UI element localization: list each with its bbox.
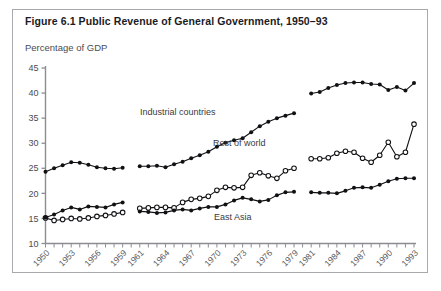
data-point — [103, 213, 108, 218]
data-point — [360, 156, 365, 161]
data-point — [275, 116, 279, 120]
data-point — [292, 111, 296, 115]
data-point — [335, 151, 340, 156]
data-point — [189, 208, 193, 212]
data-point — [369, 82, 373, 86]
data-point — [369, 160, 374, 165]
data-point — [197, 196, 202, 201]
data-point — [395, 154, 400, 159]
data-point — [403, 150, 408, 155]
y-tick-label: 20 — [28, 189, 38, 199]
data-point — [163, 205, 168, 210]
data-point — [181, 207, 185, 211]
annotation-rest-of-world: Rest of world — [213, 138, 266, 148]
data-point — [377, 153, 382, 158]
data-point — [352, 186, 356, 190]
data-point — [232, 198, 236, 202]
data-point — [403, 176, 407, 180]
data-point — [112, 212, 117, 217]
data-point — [326, 155, 331, 160]
data-point — [206, 194, 211, 199]
data-point — [386, 179, 390, 183]
data-point — [86, 216, 91, 221]
data-point — [198, 206, 202, 210]
x-tick-label: 1984 — [322, 248, 343, 269]
data-point — [343, 81, 347, 85]
x-tick-label: 1970 — [202, 248, 223, 269]
data-point — [61, 163, 65, 167]
y-tick-label: 35 — [28, 113, 38, 123]
y-tick-label: 15 — [28, 214, 38, 224]
data-point — [163, 165, 167, 169]
data-point — [386, 88, 390, 92]
data-point — [292, 166, 297, 171]
annotation-industrial-countries: Industrial countries — [140, 107, 216, 117]
data-point — [412, 122, 417, 127]
data-point — [103, 166, 107, 170]
y-tick-label: 45 — [28, 63, 38, 73]
data-point — [120, 210, 125, 215]
x-tick-label: 1956 — [82, 248, 103, 269]
data-point — [146, 164, 150, 168]
data-point — [378, 83, 382, 87]
data-point — [283, 114, 287, 118]
data-point — [343, 189, 347, 193]
data-point — [215, 188, 220, 193]
data-point — [223, 202, 227, 206]
data-point — [309, 92, 313, 96]
x-tick-label: 1973 — [228, 248, 249, 269]
data-point — [146, 210, 150, 214]
series-annotation-layer: Industrial countries Rest of world East … — [140, 107, 266, 222]
data-point — [155, 164, 159, 168]
data-point — [155, 211, 159, 215]
data-point — [275, 176, 280, 181]
data-point — [112, 167, 116, 171]
data-point — [69, 205, 73, 209]
data-point — [77, 217, 82, 222]
data-point — [343, 149, 348, 154]
x-tick-label: 1967 — [177, 248, 198, 269]
data-point — [403, 89, 407, 93]
data-point — [249, 197, 253, 201]
data-point — [369, 186, 373, 190]
y-tick-label: 25 — [28, 163, 38, 173]
x-tick-label: 1987 — [348, 248, 369, 269]
data-point — [335, 83, 339, 87]
y-tick-label: 40 — [28, 88, 38, 98]
data-point — [163, 210, 167, 214]
data-point — [335, 191, 339, 195]
data-point — [86, 163, 90, 167]
x-tick-label: 1959 — [108, 248, 129, 269]
data-point — [240, 185, 245, 190]
data-point — [352, 81, 356, 85]
data-point — [326, 86, 330, 90]
data-point — [198, 153, 202, 157]
series-rest-of-world — [43, 122, 416, 223]
data-point — [361, 185, 365, 189]
data-point — [309, 190, 313, 194]
chart-plot-area: 1015202530354045 19501953195619591961196… — [0, 0, 441, 291]
data-point — [44, 170, 48, 174]
data-point — [241, 196, 245, 200]
data-point — [266, 174, 271, 179]
data-point — [138, 164, 142, 168]
data-point — [155, 205, 160, 210]
data-point — [86, 204, 90, 208]
data-point — [172, 208, 176, 212]
data-point — [258, 199, 262, 203]
data-point — [249, 130, 253, 134]
data-point — [361, 81, 365, 85]
data-point — [266, 120, 270, 124]
y-tick-layer: 1015202530354045 — [28, 63, 45, 249]
data-point — [232, 186, 237, 191]
data-point — [283, 190, 287, 194]
data-point — [352, 150, 357, 155]
data-point — [395, 85, 399, 89]
data-point — [318, 191, 322, 195]
data-point — [309, 156, 314, 161]
data-point — [172, 162, 176, 166]
data-point — [317, 156, 322, 161]
series-layer — [43, 81, 416, 223]
data-point — [95, 165, 99, 169]
data-point — [283, 168, 288, 173]
